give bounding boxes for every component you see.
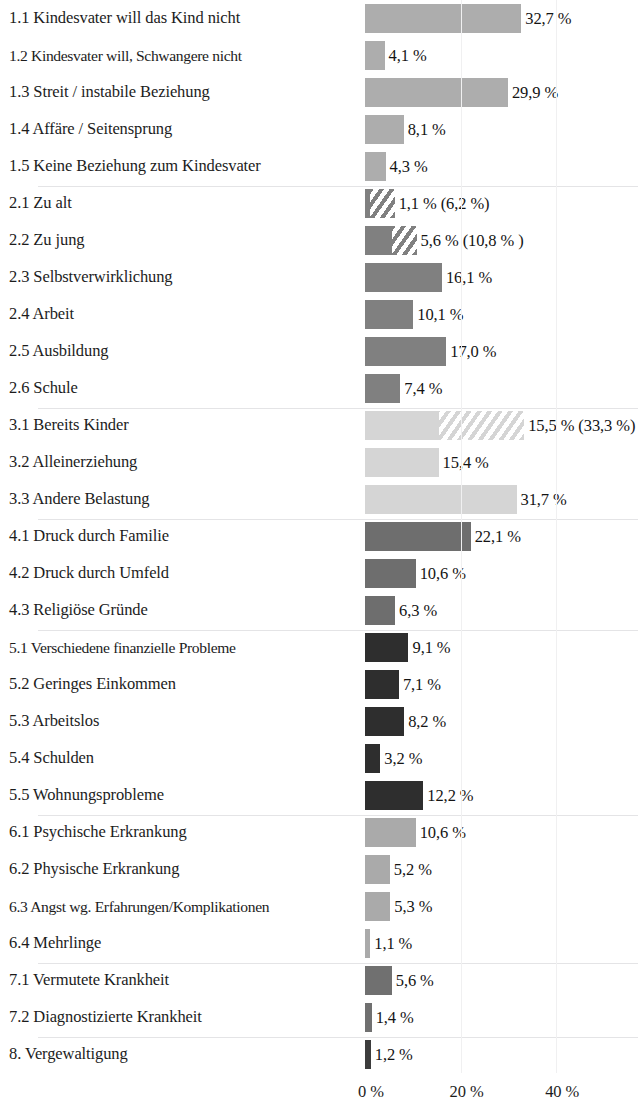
chart-row: 2.4 Arbeit10,1 % xyxy=(0,296,638,333)
chart-row: 7.2 Diagnostizierte Krankheit1,4 % xyxy=(0,999,638,1036)
bar-plot-cell: 5,6 % (10,8 % ) xyxy=(360,222,638,259)
group-separator xyxy=(38,815,638,816)
bar-segment-solid xyxy=(365,411,439,440)
bar-plot-cell: 17,0 % xyxy=(360,333,638,370)
bar-plot-cell: 16,1 % xyxy=(360,259,638,296)
chart-row: 2.5 Ausbildung17,0 % xyxy=(0,333,638,370)
bar-plot-cell: 7,4 % xyxy=(360,370,638,407)
bar-plot-cell: 10,6 % xyxy=(360,814,638,851)
bar-value-label: 29,9 % xyxy=(512,83,558,103)
bar-segment-solid xyxy=(365,892,390,921)
chart-row: 2.3 Selbstverwirklichung16,1 % xyxy=(0,259,638,296)
bar-category-label: 6.3 Angst wg. Erfahrungen/Komplikationen xyxy=(0,898,360,916)
bar xyxy=(365,966,392,995)
bar-value-label: 10,1 % xyxy=(417,305,463,325)
chart-row: 2.6 Schule7,4 % xyxy=(0,370,638,407)
chart-row: 1.4 Affäre / Seitensprung8,1 % xyxy=(0,111,638,148)
x-axis-tick-label: 0 % xyxy=(358,1082,384,1102)
chart-row: 1.2 Kindesvater will, Schwangere nicht4,… xyxy=(0,37,638,74)
bar-plot-cell: 29,9 % xyxy=(360,74,638,111)
bar-category-label: 2.5 Ausbildung xyxy=(0,342,360,361)
bar xyxy=(365,41,385,70)
bar-category-label: 6.1 Psychische Erkrankung xyxy=(0,823,360,842)
bar-segment-solid xyxy=(365,966,392,995)
bar xyxy=(365,522,471,551)
bar-category-label: 7.1 Vermutete Krankheit xyxy=(0,971,360,990)
bar-segment-solid xyxy=(365,41,385,70)
bar xyxy=(365,263,442,292)
bar-segment-solid xyxy=(365,596,395,625)
bar xyxy=(365,855,390,884)
bar-category-label: 1.1 Kindesvater will das Kind nicht xyxy=(0,9,360,28)
chart-row: 3.1 Bereits Kinder15,5 % (33,3 %) xyxy=(0,407,638,444)
bar-category-label: 1.3 Streit / instabile Beziehung xyxy=(0,83,360,102)
bar-value-label: 16,1 % xyxy=(446,268,492,288)
bar xyxy=(365,781,423,810)
chart-row: 3.2 Alleinerziehung15,4 % xyxy=(0,444,638,481)
chart-row: 6.2 Physische Erkrankung5,2 % xyxy=(0,851,638,888)
bar-segment-solid xyxy=(365,226,392,255)
bar-category-label: 6.4 Mehrlinge xyxy=(0,934,360,953)
bar xyxy=(365,892,390,921)
bar-plot-cell: 15,4 % xyxy=(360,444,638,481)
bar xyxy=(365,448,439,477)
bar-value-label: 32,7 % xyxy=(525,9,571,29)
bar-category-label: 2.3 Selbstverwirklichung xyxy=(0,268,360,287)
bar-category-label: 1.2 Kindesvater will, Schwangere nicht xyxy=(0,47,360,65)
bar-value-label: 5,3 % xyxy=(394,897,432,917)
bar-value-label: 4,1 % xyxy=(389,46,427,66)
chart-row: 7.1 Vermutete Krankheit5,6 % xyxy=(0,962,638,999)
bar-segment-solid xyxy=(365,78,508,107)
bar-value-label: 8,2 % xyxy=(408,712,446,732)
bar-segment-solid xyxy=(365,633,408,662)
bar-segment-solid xyxy=(365,670,399,699)
bar-category-label: 6.2 Physische Erkrankung xyxy=(0,860,360,879)
bar xyxy=(365,374,400,403)
group-separator xyxy=(38,1037,638,1038)
chart-row: 6.1 Psychische Erkrankung10,6 % xyxy=(0,814,638,851)
chart-row: 5.4 Schulden3,2 % xyxy=(0,740,638,777)
bar-value-label: 5,6 % (10,8 % ) xyxy=(421,231,524,251)
bar-segment-solid xyxy=(365,744,380,773)
bar-value-label: 10,6 % xyxy=(420,823,466,843)
bar xyxy=(365,152,386,181)
chart-row: 5.3 Arbeitslos8,2 % xyxy=(0,703,638,740)
bar-value-label: 6,3 % xyxy=(399,601,437,621)
bar-value-label: 3,2 % xyxy=(384,749,422,769)
bar-value-label: 9,1 % xyxy=(412,638,450,658)
chart-row: 5.1 Verschiedene finanzielle Probleme9,1… xyxy=(0,629,638,666)
bar-segment-solid xyxy=(365,781,423,810)
bar-plot-cell: 4,3 % xyxy=(360,148,638,185)
bar-value-label: 5,2 % xyxy=(394,860,432,880)
bar-value-label: 22,1 % xyxy=(475,527,521,547)
bar xyxy=(365,929,370,958)
bar xyxy=(365,189,395,218)
bar-segment-solid xyxy=(365,374,400,403)
bar-category-label: 5.5 Wohnungsprobleme xyxy=(0,786,360,805)
bar-category-label: 5.1 Verschiedene finanzielle Probleme xyxy=(0,639,360,657)
bar-category-label: 4.2 Druck durch Umfeld xyxy=(0,564,360,583)
bar-value-label: 7,4 % xyxy=(404,379,442,399)
bar-plot-cell: 3,2 % xyxy=(360,740,638,777)
chart-row: 4.3 Religiöse Gründe6,3 % xyxy=(0,592,638,629)
bar-value-label: 31,7 % xyxy=(521,490,567,510)
chart-row: 6.3 Angst wg. Erfahrungen/Komplikationen… xyxy=(0,888,638,925)
chart-row: 2.2 Zu jung5,6 % (10,8 % ) xyxy=(0,222,638,259)
x-axis-tick-label: 40 % xyxy=(545,1082,579,1102)
group-separator xyxy=(38,630,638,631)
bar-value-label: 1,1 % xyxy=(374,934,412,954)
chart-row: 4.2 Druck durch Umfeld10,6 % xyxy=(0,555,638,592)
chart-row: 3.3 Andere Belastung31,7 % xyxy=(0,481,638,518)
bar xyxy=(365,1003,372,1032)
bar-segment-solid xyxy=(365,522,471,551)
bar-category-label: 5.3 Arbeitslos xyxy=(0,712,360,731)
bar-value-label: 1,1 % (6,2 %) xyxy=(399,194,490,214)
bar xyxy=(365,596,395,625)
bar-plot-cell: 15,5 % (33,3 %) xyxy=(360,407,638,444)
bar-segment-solid xyxy=(365,448,439,477)
bar-plot-cell: 32,7 % xyxy=(360,0,638,37)
bar xyxy=(365,411,524,440)
bar-value-label: 10,6 % xyxy=(420,564,466,584)
bar-plot-cell: 5,3 % xyxy=(360,888,638,925)
bar-value-label: 15,5 % (33,3 %) xyxy=(528,416,635,436)
